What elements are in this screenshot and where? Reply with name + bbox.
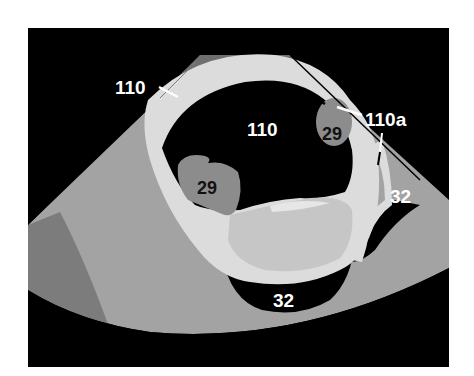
label-110-outer: 110 bbox=[115, 77, 146, 98]
label-110a: 110a bbox=[365, 109, 407, 130]
label-29-left: 29 bbox=[197, 178, 217, 198]
ultrasound-diagram: 110 110 110a 29 29 32 32 bbox=[0, 0, 474, 376]
label-110-inner: 110 bbox=[247, 119, 278, 140]
label-29-right: 29 bbox=[322, 124, 342, 144]
label-32-bottom: 32 bbox=[273, 290, 294, 311]
label-32-right: 32 bbox=[390, 186, 411, 207]
